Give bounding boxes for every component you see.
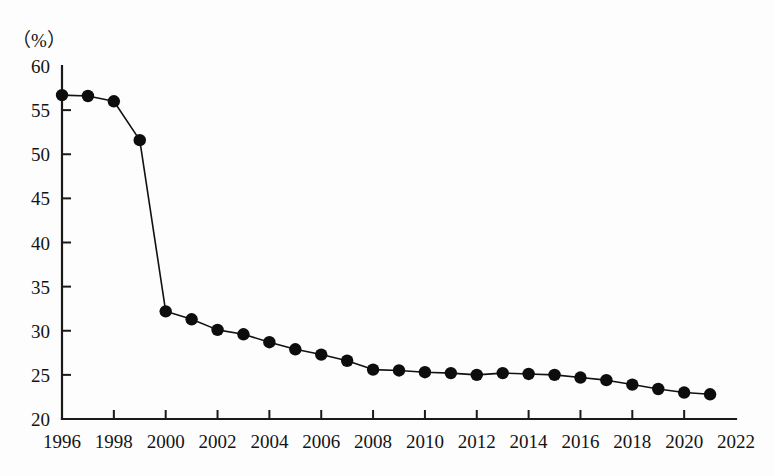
data-point xyxy=(496,367,508,379)
chart-page: （%） 202530354045505560 19961998200020022… xyxy=(0,0,774,476)
data-point xyxy=(548,369,560,381)
data-point xyxy=(600,374,612,386)
line-chart: （%） 202530354045505560 19961998200020022… xyxy=(0,0,774,476)
data-point xyxy=(185,313,197,325)
data-point xyxy=(108,95,120,107)
data-point xyxy=(704,388,716,400)
x-axis-tick-labels: 1996199820002002200420062008201020122014… xyxy=(43,431,755,452)
x-axis-tick-label: 2018 xyxy=(613,431,651,452)
x-axis-tick-label: 2008 xyxy=(354,431,392,452)
data-point xyxy=(315,348,327,360)
x-axis-tick-label: 2000 xyxy=(147,431,185,452)
data-point xyxy=(341,355,353,367)
data-point xyxy=(367,363,379,375)
x-axis-tick-label: 1996 xyxy=(43,431,81,452)
data-point xyxy=(263,336,275,348)
data-point xyxy=(574,371,586,383)
y-axis-tick-label: 40 xyxy=(31,233,50,254)
data-point xyxy=(134,134,146,146)
y-axis-tick-label: 30 xyxy=(31,321,50,342)
data-point xyxy=(652,383,664,395)
data-point xyxy=(237,328,249,340)
x-axis-ticks xyxy=(114,410,684,419)
x-axis-tick-label: 2006 xyxy=(302,431,340,452)
data-point xyxy=(445,367,457,379)
x-axis-tick-label: 2002 xyxy=(199,431,237,452)
data-point xyxy=(522,368,534,380)
y-axis-tick-label: 25 xyxy=(31,365,50,386)
data-point xyxy=(211,324,223,336)
x-axis-tick-label: 2016 xyxy=(561,431,599,452)
x-axis-tick-label: 2012 xyxy=(458,431,496,452)
data-point xyxy=(471,369,483,381)
y-axis-tick-label: 20 xyxy=(31,409,50,430)
data-point xyxy=(159,305,171,317)
data-point xyxy=(289,343,301,355)
y-axis-tick-label: 35 xyxy=(31,277,50,298)
y-axis-unit-label: （%） xyxy=(12,30,66,51)
data-point xyxy=(82,90,94,102)
x-axis-tick-label: 2010 xyxy=(406,431,444,452)
y-axis-tick-label: 45 xyxy=(31,188,50,209)
x-axis-tick-label: 1998 xyxy=(95,431,133,452)
y-axis-tick-label: 55 xyxy=(31,100,50,121)
y-axis-unit-label-text: （%） xyxy=(12,30,66,51)
data-point xyxy=(626,378,638,390)
y-axis-ticks xyxy=(62,110,71,375)
x-axis-tick-label: 2020 xyxy=(665,431,703,452)
y-axis-tick-label: 50 xyxy=(31,144,50,165)
series-line-path xyxy=(62,95,710,394)
x-axis-tick-label: 2004 xyxy=(250,431,289,452)
x-axis-tick-label: 2014 xyxy=(510,431,549,452)
data-point xyxy=(419,366,431,378)
data-point xyxy=(393,364,405,376)
data-point xyxy=(678,386,690,398)
data-point xyxy=(56,89,68,101)
y-axis-tick-labels: 202530354045505560 xyxy=(31,56,50,430)
y-axis-tick-label: 60 xyxy=(31,56,50,77)
x-axis-tick-label: 2022 xyxy=(717,431,755,452)
